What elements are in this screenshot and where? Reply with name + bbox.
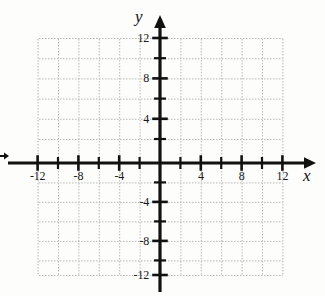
x-axis-line (8, 157, 316, 169)
y-axis-label: y (135, 8, 143, 25)
y-tick-label-4: 4 (127, 113, 149, 125)
x-axis-label: x (303, 167, 311, 184)
x-tick-label-8: 8 (239, 170, 245, 182)
x-axis-left-arrow-stub (0, 153, 9, 160)
x-tick-label-neg4: -4 (114, 170, 124, 182)
graph-canvas (0, 0, 325, 296)
y-tick-label-neg8: -8 (127, 235, 149, 247)
y-tick-label-neg12: -12 (124, 269, 149, 281)
x-tick-label-4: 4 (198, 170, 204, 182)
y-tick-label-8: 8 (127, 72, 149, 84)
x-tick-label-neg8: -8 (74, 170, 84, 182)
x-tick-label-12: 12 (277, 170, 289, 182)
y-tick-label-neg4: -4 (127, 196, 149, 208)
y-axis-line (154, 15, 166, 292)
x-tick-label-neg12: -12 (30, 170, 45, 182)
coordinate-plane-figure: -12 -8 -4 4 8 12 12 8 4 -4 -8 -12 y x (0, 0, 325, 296)
y-tick-label-12: 12 (127, 32, 149, 44)
